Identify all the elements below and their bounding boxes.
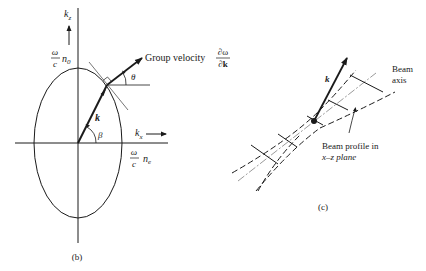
svg-text:k: k xyxy=(325,74,330,84)
beam-axis-label: Beam xyxy=(392,64,413,74)
label-omega-c-ne: ω c ne xyxy=(130,147,151,169)
svg-text:∂ω: ∂ω xyxy=(218,47,228,57)
panel-b: kz kx ω c n0 ω c ne k β xyxy=(15,8,230,262)
group-velocity-label: Group velocity xyxy=(145,52,205,63)
svg-text:c: c xyxy=(53,59,57,69)
svg-text:k: k xyxy=(95,112,100,123)
beam-axis-line xyxy=(238,73,376,181)
caption-b: (b) xyxy=(72,252,83,262)
panel-c: k Beam axis Beam profile in x–z plane (c… xyxy=(232,58,413,212)
label-dw-dk: ∂ω ∂k xyxy=(216,47,230,69)
beam-profile-label: Beam profile in xyxy=(322,141,379,151)
svg-text:θ: θ xyxy=(131,72,136,82)
svg-text:kx: kx xyxy=(135,127,143,141)
figure-canvas: kz kx ω c n0 ω c ne k β xyxy=(0,0,426,271)
profile-line xyxy=(350,75,383,92)
profile-leader-arrow-icon xyxy=(349,109,355,133)
k-vector-arrow-icon xyxy=(314,58,347,121)
profile-line xyxy=(251,145,278,164)
svg-text:axis: axis xyxy=(392,75,407,85)
beta-arc xyxy=(87,127,96,143)
group-velocity-arrow-icon xyxy=(107,58,142,85)
profile-line xyxy=(278,134,297,147)
label-omega-c-n0: ω c n0 xyxy=(51,47,71,69)
svg-text:β: β xyxy=(97,130,103,140)
diagram-svg: kz kx ω c n0 ω c ne k β xyxy=(0,0,426,271)
svg-text:∂k: ∂k xyxy=(218,59,227,69)
svg-text:ω: ω xyxy=(52,47,58,57)
svg-text:c: c xyxy=(132,159,136,169)
tangent-line xyxy=(89,62,128,110)
theta-arc xyxy=(123,73,126,85)
svg-text:ne: ne xyxy=(143,153,151,166)
svg-text:x–z plane: x–z plane xyxy=(321,152,356,162)
caption-c: (c) xyxy=(318,202,328,212)
svg-text:n0: n0 xyxy=(62,53,71,66)
svg-text:kz: kz xyxy=(64,8,71,22)
svg-text:ω: ω xyxy=(131,147,137,157)
